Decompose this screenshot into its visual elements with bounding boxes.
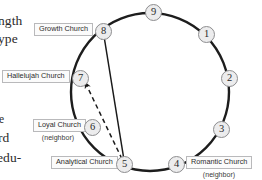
node-3-number: 3 <box>219 124 224 135</box>
label-loyal-church[interactable]: Loyal Church <box>33 119 86 132</box>
label-growth-church[interactable]: Growth Church <box>34 23 93 36</box>
node-1-number: 1 <box>204 29 209 40</box>
label-romantic-church-sublabel: (neighbor) <box>190 171 248 179</box>
node-4[interactable]: 4 <box>168 156 185 173</box>
node-7[interactable]: 7 <box>72 70 89 87</box>
label-analytical-church[interactable]: Analytical Church <box>51 156 118 169</box>
node-3[interactable]: 3 <box>213 121 230 138</box>
node-8[interactable]: 8 <box>95 23 112 40</box>
label-romantic-church-text: Romantic Church <box>191 158 247 166</box>
label-loyal-church-sublabel: (neighbor) <box>33 134 83 142</box>
node-2-number: 2 <box>227 73 232 84</box>
node-7-number: 7 <box>78 73 83 84</box>
node-9[interactable]: 9 <box>145 4 162 21</box>
node-5-number: 5 <box>122 159 127 170</box>
diagram-canvas: ngth ype e rd edu- Growth Church Hallelu… <box>0 0 262 180</box>
node-9-number: 9 <box>151 7 156 18</box>
label-romantic-church[interactable]: Romantic Church <box>186 156 252 169</box>
node-1[interactable]: 1 <box>198 26 215 43</box>
label-growth-church-text: Growth Church <box>39 25 88 33</box>
node-8-number: 8 <box>101 26 106 37</box>
node-2[interactable]: 2 <box>221 70 238 87</box>
label-loyal-church-text: Loyal Church <box>38 121 81 129</box>
label-hallelujah-church-text: Hallelujah Church <box>7 72 65 80</box>
label-analytical-church-text: Analytical Church <box>56 158 113 166</box>
node-6-number: 6 <box>90 122 95 133</box>
node-6[interactable]: 6 <box>84 119 101 136</box>
label-hallelujah-church[interactable]: Hallelujah Church <box>2 70 70 83</box>
node-5[interactable]: 5 <box>116 156 133 173</box>
node-4-number: 4 <box>174 159 179 170</box>
